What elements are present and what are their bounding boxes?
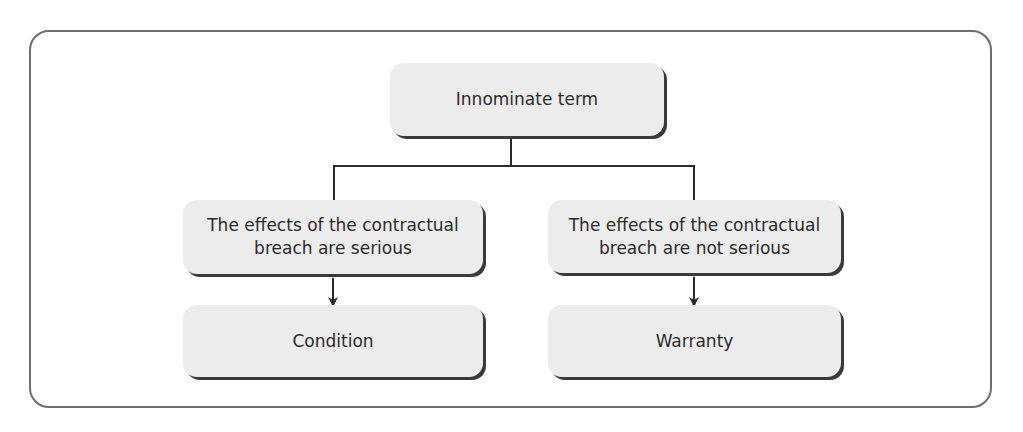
root-node-label: Innominate term bbox=[456, 88, 598, 111]
node-label-line1: The effects of the contractual bbox=[207, 214, 459, 237]
node-label-line1: The effects of the contractual bbox=[569, 214, 821, 237]
node-serious-breach: The effects of the contractual breach ar… bbox=[183, 200, 483, 274]
node-not-serious-breach: The effects of the contractual breach ar… bbox=[548, 200, 841, 273]
root-node-innominate-term: Innominate term bbox=[390, 63, 664, 136]
node-warranty: Warranty bbox=[548, 305, 841, 377]
node-condition: Condition bbox=[183, 305, 483, 377]
node-label: Warranty bbox=[656, 330, 734, 353]
node-label: Condition bbox=[292, 330, 373, 353]
node-label-line2: breach are not serious bbox=[569, 237, 821, 260]
node-label-line2: breach are serious bbox=[207, 237, 459, 260]
